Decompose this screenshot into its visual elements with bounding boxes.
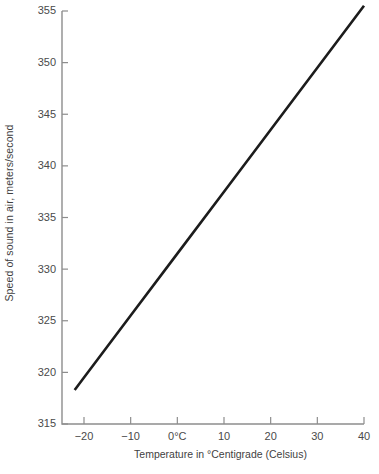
x-axis-title: Temperature in °Centigrade (Celsius)	[62, 448, 379, 460]
x-tick-label: −20	[75, 430, 94, 442]
x-tick-label: 20	[265, 430, 277, 442]
y-axis-title-text: Speed of sound in air, meters/second	[3, 125, 15, 302]
axis-spine	[62, 11, 364, 424]
y-tick-label: 350	[38, 56, 56, 68]
x-axis-title-text: Temperature in °Centigrade (Celsius)	[134, 448, 307, 460]
axis-ticks-group	[62, 11, 364, 424]
y-tick-label: 335	[38, 211, 56, 223]
y-tick-label: 315	[38, 417, 56, 429]
y-axis-title: Speed of sound in air, meters/second	[0, 0, 18, 474]
y-tick-label: 320	[38, 366, 56, 378]
x-tick-label: 10	[218, 430, 230, 442]
y-tick-label: 340	[38, 159, 56, 171]
x-tick-label: −10	[121, 430, 140, 442]
y-tick-label: 330	[38, 263, 56, 275]
chart-container: 315320325330335340345350355 −20−100°C102…	[0, 0, 379, 474]
y-tick-label: 355	[38, 4, 56, 16]
line-chart-plot: 315320325330335340345350355 −20−100°C102…	[0, 0, 379, 474]
y-tick-label: 325	[38, 314, 56, 326]
x-tick-label: 30	[311, 430, 323, 442]
x-axis-tick-labels: −20−100°C10203040	[75, 430, 370, 442]
y-axis-tick-labels: 315320325330335340345350355	[38, 4, 56, 429]
x-tick-label: 0°C	[168, 430, 187, 442]
y-tick-label: 345	[38, 108, 56, 120]
data-series-line	[75, 6, 364, 390]
x-tick-label: 40	[358, 430, 370, 442]
